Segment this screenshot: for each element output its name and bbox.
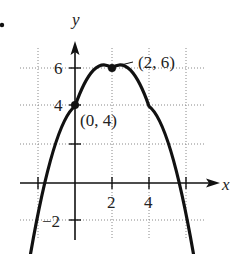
vertex-label: (2, 6) bbox=[138, 53, 175, 72]
tick-label-y-neg2: −2 bbox=[42, 212, 60, 231]
vertex-point bbox=[108, 64, 116, 72]
y-axis bbox=[69, 41, 81, 240]
tick-label-y-6: 6 bbox=[54, 59, 63, 78]
x-axis-label: x bbox=[221, 175, 230, 194]
intercept-label: (0, 4) bbox=[80, 111, 117, 130]
x-axis bbox=[20, 177, 220, 189]
tick-label-y-4: 4 bbox=[54, 96, 63, 115]
y-axis-label: y bbox=[70, 10, 80, 29]
tick-label-x-4: 4 bbox=[144, 193, 153, 212]
tick-label-x-2: 2 bbox=[107, 193, 116, 212]
intercept-point bbox=[71, 101, 79, 109]
parabola-chart: y x 6 4 −2 2 4 (2, 6) (0, 4) bbox=[0, 0, 235, 254]
bullet-marker bbox=[0, 23, 4, 27]
